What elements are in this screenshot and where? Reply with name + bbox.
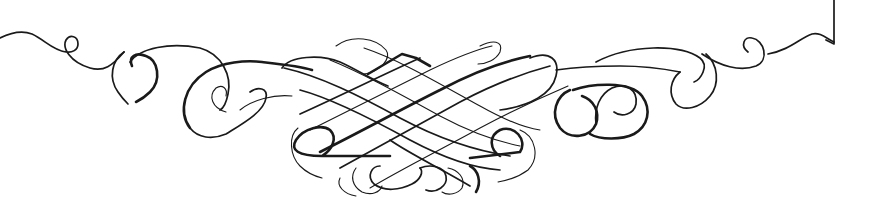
flourish-ornament-icon bbox=[0, 0, 873, 214]
left-scroll bbox=[0, 32, 312, 137]
right-scroll bbox=[555, 34, 834, 139]
center-lattice-knot bbox=[282, 39, 680, 188]
bottom-curls bbox=[339, 166, 479, 196]
ornament-canvas bbox=[0, 0, 873, 214]
